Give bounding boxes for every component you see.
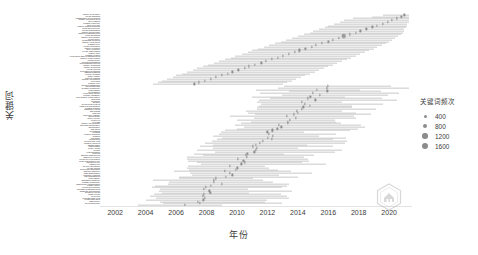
legend-dot-wrap bbox=[418, 133, 432, 138]
x-tick-label: 2012 bbox=[260, 209, 276, 216]
legend-title: 关键词频次 bbox=[420, 96, 476, 106]
legend-label: 400 bbox=[435, 113, 446, 120]
keyword-label: geomorphology bbox=[85, 203, 100, 205]
x-tick-label: 2002 bbox=[107, 209, 123, 216]
keyword-label-column: marine heat waveocean warmingsustainable… bbox=[18, 14, 100, 206]
legend-dot-wrap bbox=[418, 115, 432, 118]
y-axis-title: 关键词 bbox=[2, 90, 16, 120]
legend-label: 1200 bbox=[435, 133, 449, 140]
legend-label: 800 bbox=[435, 123, 446, 130]
x-axis-line bbox=[100, 206, 412, 207]
x-tick-label: 2016 bbox=[320, 209, 336, 216]
size-legend: 关键词频次 40080012001600 bbox=[414, 96, 476, 151]
x-axis-title: 年份 bbox=[0, 228, 478, 241]
legend-dot-icon bbox=[423, 124, 427, 128]
x-tick-label: 2014 bbox=[290, 209, 306, 216]
legend-items: 40080012001600 bbox=[414, 111, 476, 151]
legend-dot-wrap bbox=[418, 124, 432, 128]
legend-item: 800 bbox=[418, 121, 476, 131]
legend-dot-wrap bbox=[418, 143, 432, 150]
legend-item: 1200 bbox=[418, 131, 476, 141]
legend-item: 1600 bbox=[418, 141, 476, 151]
legend-dot-icon bbox=[422, 133, 427, 138]
legend-dot-icon bbox=[424, 115, 427, 118]
x-tick-label: 2018 bbox=[351, 209, 367, 216]
plot-area bbox=[100, 14, 412, 206]
legend-label: 1600 bbox=[435, 143, 449, 150]
x-axis-ticks: 2002200420062008201020122014201620182020 bbox=[100, 209, 412, 221]
legend-dot-icon bbox=[422, 143, 429, 150]
x-tick-label: 2010 bbox=[229, 209, 245, 216]
x-tick-label: 2004 bbox=[138, 209, 154, 216]
x-tick-label: 2006 bbox=[168, 209, 184, 216]
legend-item: 400 bbox=[418, 111, 476, 121]
hexagon-logo-watermark bbox=[376, 183, 402, 211]
x-tick-label: 2008 bbox=[199, 209, 215, 216]
keyword-timeline-chart: 关键词 marine heat waveocean warmingsustain… bbox=[0, 0, 478, 255]
